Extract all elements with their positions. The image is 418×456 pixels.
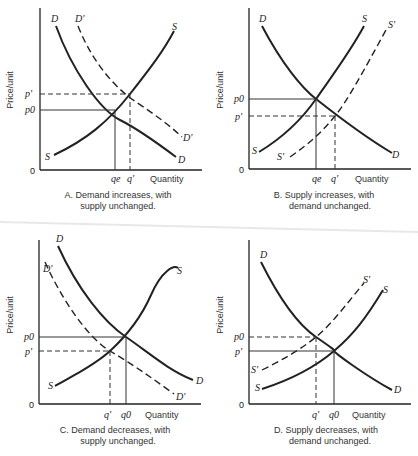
curve-label-s-prime: S' bbox=[363, 274, 371, 285]
y-axis-label: Price/unit bbox=[215, 71, 225, 109]
price-tick-lower: p' bbox=[234, 346, 243, 357]
curve-label-d-prime: D' bbox=[74, 13, 85, 24]
qty-tick-right: q0 bbox=[121, 409, 131, 420]
y-axis-label: Price/unit bbox=[5, 296, 15, 334]
x-axis-label: Quantity bbox=[150, 174, 184, 184]
curve-label-d-prime: D' bbox=[42, 263, 53, 274]
x-axis-label: Quantity bbox=[145, 410, 179, 420]
origin-label: 0 bbox=[239, 165, 244, 175]
qty-tick-left: qe bbox=[312, 173, 322, 184]
curve-label-d-prime-low: D' bbox=[182, 132, 193, 143]
origin-label: 0 bbox=[30, 166, 35, 176]
caption-line-1: D. Supply decreases, with bbox=[274, 425, 378, 435]
supply-curve-s bbox=[259, 26, 364, 152]
caption-line-2: demand unchanged. bbox=[289, 436, 371, 446]
caption-line-1: A. Demand increases, with bbox=[64, 190, 171, 200]
x-axis-label: Quantity bbox=[352, 410, 386, 420]
curve-label-d: D bbox=[258, 13, 267, 24]
panel-separator bbox=[0, 222, 418, 232]
qty-tick-right: q' bbox=[127, 173, 135, 184]
qty-tick-right: q0 bbox=[329, 409, 339, 420]
caption-line-2: supply unchanged. bbox=[80, 201, 156, 211]
x-axis-label: Quantity bbox=[355, 174, 389, 184]
curve-label-s: S bbox=[177, 265, 182, 276]
panel-c-demand-decreases: Price/unit 0 Quantity D D' S S D D' p0 p… bbox=[5, 233, 204, 446]
qty-tick-left: q' bbox=[312, 409, 320, 420]
supply-curve-s bbox=[54, 31, 174, 155]
panel-d-supply-decreases: Price/unit 0 Quantity D S' S S' S D p0 p… bbox=[215, 240, 411, 446]
curve-label-d-low: D bbox=[393, 384, 402, 395]
origin-label: 0 bbox=[239, 400, 244, 410]
curve-label-d: D bbox=[50, 13, 59, 24]
curve-label-d-low: D bbox=[391, 149, 400, 160]
caption-line-2: demand unchanged. bbox=[289, 201, 371, 211]
price-tick-upper: p0 bbox=[233, 331, 244, 342]
curve-label-s-prime: S' bbox=[388, 19, 396, 30]
curve-label-s: S bbox=[383, 284, 388, 295]
price-tick-upper: p' bbox=[24, 88, 33, 99]
supply-curve-s-prime bbox=[262, 283, 364, 370]
curve-label-d-low: D bbox=[177, 154, 186, 165]
panel-a-demand-increases: Price/unit 0 Quantity D D' S S D' D p' p… bbox=[5, 8, 202, 211]
curve-label-d: D bbox=[259, 249, 268, 260]
origin-label: 0 bbox=[29, 400, 34, 410]
qty-tick-left: q' bbox=[104, 409, 112, 420]
price-tick-upper: p0 bbox=[23, 331, 34, 342]
curve-label-d: D bbox=[55, 233, 64, 244]
demand-curve-d bbox=[261, 262, 392, 390]
y-axis-label: Price/unit bbox=[215, 296, 225, 334]
supply-curve-s bbox=[55, 267, 178, 386]
supply-curve-s-prime bbox=[290, 30, 386, 157]
qty-tick-right: q' bbox=[331, 173, 339, 184]
curve-label-s: S bbox=[362, 13, 367, 24]
demand-curve-d bbox=[56, 26, 176, 157]
supply-demand-figure: Price/unit 0 Quantity D D' S S D' D p' p… bbox=[0, 0, 418, 456]
curve-label-s-low: S bbox=[255, 382, 260, 393]
caption-line-1: B. Supply increases, with bbox=[274, 190, 375, 200]
curve-label-s-prime-low: S' bbox=[277, 151, 285, 162]
curve-label-s: S bbox=[172, 21, 177, 32]
curve-label-s-low: S bbox=[45, 151, 50, 162]
curve-label-d-prime-low: D' bbox=[175, 391, 186, 402]
caption-line-1: C. Demand decreases, with bbox=[60, 425, 171, 435]
curve-label-s-prime-low: S' bbox=[251, 364, 259, 375]
y-axis-label: Price/unit bbox=[5, 71, 15, 109]
panel-b-supply-increases: Price/unit 0 Quantity D S S' S S' D p0 p… bbox=[215, 8, 411, 211]
price-tick-upper: p0 bbox=[233, 93, 244, 104]
curve-label-s-low: S bbox=[252, 145, 257, 156]
curve-label-d-low: D bbox=[195, 375, 204, 386]
demand-curve-d bbox=[262, 26, 392, 153]
demand-curve-d-prime bbox=[45, 262, 174, 394]
price-tick-lower: p' bbox=[234, 111, 243, 122]
curve-label-s-low: S bbox=[48, 380, 53, 391]
price-tick-lower: p0 bbox=[24, 104, 35, 115]
caption-line-2: supply unchanged. bbox=[80, 436, 156, 446]
qty-tick-left: qe bbox=[111, 173, 121, 184]
price-tick-lower: p' bbox=[24, 346, 33, 357]
